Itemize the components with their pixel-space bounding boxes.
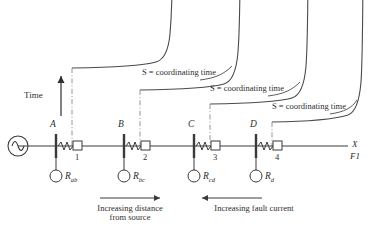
- curve-relay-ab: [72, 0, 172, 68]
- fault-label-f1: F1: [350, 152, 360, 161]
- time-axis-label: Time: [24, 91, 43, 100]
- breaker-label-4: 4: [275, 153, 279, 162]
- relay-circle-ab: [50, 170, 62, 182]
- breaker-box-4: [273, 141, 282, 150]
- relay-circle-cd: [188, 170, 200, 182]
- breaker-box-2: [141, 141, 150, 150]
- relay-circle-bc: [118, 170, 130, 182]
- caption-increasing-fault-current: Increasing fault current: [190, 204, 318, 213]
- breaker-label-2: 2: [143, 153, 147, 162]
- coordinating-time-label-3: S = coordinating time: [272, 102, 346, 111]
- bus-label-d: D: [250, 120, 257, 130]
- coordinating-time-label-2: S = coordinating time: [210, 84, 284, 93]
- breaker-box-1: [73, 141, 82, 150]
- breaker-label-3: 3: [213, 153, 217, 162]
- breaker-label-1: 1: [75, 153, 79, 162]
- bus-label-a: A: [50, 120, 56, 130]
- relay-label-ab: Rab: [65, 172, 77, 183]
- breaker-box-3: [211, 141, 220, 150]
- bus-label-b: B: [118, 120, 124, 130]
- caption-increasing-distance: Increasing distance from source: [78, 204, 182, 221]
- terminus-label-x: X: [352, 140, 358, 149]
- bus-label-c: C: [188, 120, 194, 130]
- relay-label-bc: Rbc: [133, 172, 145, 183]
- relay-circle-d: [250, 170, 262, 182]
- caption-distance-line2: from source: [78, 213, 182, 222]
- coordination-diagram: Time A B C D 1 2 3 4 Rab Rbc Rcd Rd S = …: [0, 0, 379, 233]
- diagram-canvas: [0, 0, 379, 233]
- bus-projection-lines: [72, 68, 272, 146]
- coordinating-time-label-1: S = coordinating time: [142, 68, 216, 77]
- relay-sub-ab: ab: [71, 176, 78, 183]
- relay-label-d: Rd: [265, 172, 274, 183]
- relay-label-cd: Rcd: [203, 172, 215, 183]
- relay-sub-d: d: [271, 176, 274, 183]
- relay-sub-cd: cd: [209, 176, 215, 183]
- relay-sub-bc: bc: [139, 176, 145, 183]
